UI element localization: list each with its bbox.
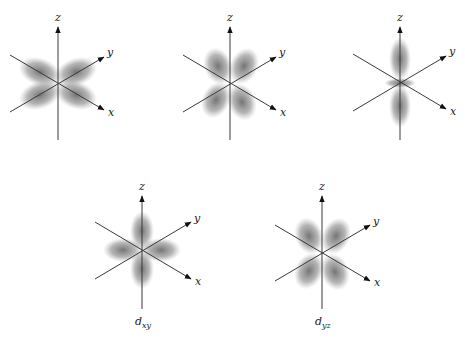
x-label: x bbox=[108, 106, 115, 119]
z-label: z bbox=[54, 11, 61, 24]
orbital-figure: z y x z y x z y x bbox=[0, 0, 465, 338]
y-label: y bbox=[448, 45, 456, 58]
y-label: y bbox=[193, 212, 201, 225]
x-label: x bbox=[374, 276, 381, 289]
x-label: x bbox=[195, 275, 202, 288]
x-label: x bbox=[450, 105, 457, 118]
orbital-panel-dyz: z y x dyz bbox=[275, 180, 381, 330]
y-label: y bbox=[106, 46, 114, 59]
orbital-panel-1: z y x bbox=[10, 11, 115, 140]
y-label: y bbox=[372, 215, 380, 228]
orbital-panel-3: z y x bbox=[353, 11, 457, 140]
orbital-caption: dyz bbox=[315, 315, 332, 330]
orbital-panel-2: z y x bbox=[183, 11, 287, 140]
y-label: y bbox=[278, 46, 286, 59]
z-label: z bbox=[226, 11, 233, 24]
z-label: z bbox=[138, 180, 145, 193]
orbital-panel-dxy: z y x dxy bbox=[95, 180, 202, 330]
orbital-caption: dxy bbox=[135, 315, 152, 330]
z-label: z bbox=[318, 180, 325, 193]
z-label: z bbox=[396, 11, 403, 24]
x-label: x bbox=[280, 106, 287, 119]
